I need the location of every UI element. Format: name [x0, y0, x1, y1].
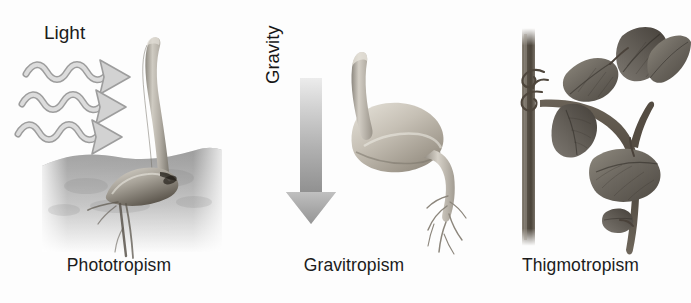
light-stimulus-label: Light [44, 22, 85, 44]
panel-thigmotropism: Thigmotropism [470, 0, 691, 303]
tropism-figure: Light Phototropism [0, 0, 691, 303]
seedling-shoot [143, 37, 169, 172]
light-ray-1 [26, 60, 130, 94]
caption-gravitropism: Gravitropism [238, 255, 470, 276]
light-ray-2 [22, 90, 126, 124]
support-pole [522, 28, 535, 246]
panel-phototropism: Light Phototropism [0, 0, 238, 303]
light-ray-group [18, 60, 130, 154]
gravity-arrow [286, 78, 336, 224]
caption-thigmotropism: Thigmotropism [470, 255, 691, 276]
gravitropism-seedling [351, 52, 466, 254]
panel-gravitropism: Gravity Gravitropism [238, 0, 470, 303]
light-ray-3 [18, 120, 122, 154]
caption-phototropism: Phototropism [0, 255, 238, 276]
gravity-stimulus-label: Gravity [262, 25, 284, 84]
